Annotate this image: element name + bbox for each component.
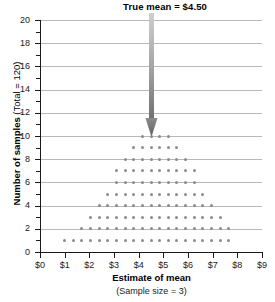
y-axis-tick <box>35 229 40 230</box>
x-axis-subtitle: (Sample size = 3) <box>40 286 263 296</box>
data-point <box>141 193 144 196</box>
data-point <box>150 239 153 242</box>
data-point <box>158 216 161 219</box>
data-point <box>167 146 170 149</box>
data-point <box>184 239 187 242</box>
y-axis-line <box>40 20 41 253</box>
x-axis-tick <box>163 253 164 258</box>
y-axis-tick <box>35 206 40 207</box>
data-point <box>193 239 196 242</box>
data-point <box>141 146 144 149</box>
data-point <box>124 239 127 242</box>
data-point <box>158 193 161 196</box>
data-point <box>184 216 187 219</box>
gridline <box>40 20 262 21</box>
data-point <box>184 193 187 196</box>
data-point <box>219 216 222 219</box>
y-axis-title-sub: (Total = 120) <box>11 62 22 118</box>
x-axis-tick-label: $7 <box>200 261 226 270</box>
x-axis-tick-label: $8 <box>224 261 250 270</box>
y-axis-title: Number of samples (Total = 120) <box>11 34 22 234</box>
data-point <box>124 216 127 219</box>
data-point <box>141 135 144 138</box>
y-axis-tick <box>35 159 40 160</box>
data-point <box>193 216 196 219</box>
y-axis-minor-tick <box>36 32 40 33</box>
x-axis-line <box>40 252 263 253</box>
data-point <box>150 227 153 230</box>
data-point <box>167 204 170 207</box>
data-point <box>193 193 196 196</box>
data-point <box>141 204 144 207</box>
data-point <box>141 181 144 184</box>
data-point <box>158 158 161 161</box>
data-point <box>150 204 153 207</box>
gridline <box>40 113 262 114</box>
data-point <box>124 181 127 184</box>
data-point <box>124 227 127 230</box>
data-point <box>115 216 118 219</box>
data-point <box>98 239 101 242</box>
data-point <box>193 204 196 207</box>
data-point <box>98 204 101 207</box>
y-axis-minor-tick <box>36 194 40 195</box>
y-axis-tick <box>35 182 40 183</box>
data-point <box>124 158 127 161</box>
x-axis-tick-label: $0 <box>27 261 53 270</box>
y-axis-tick <box>35 43 40 44</box>
data-point <box>167 135 170 138</box>
data-point <box>89 239 92 242</box>
data-point <box>167 158 170 161</box>
data-point <box>167 193 170 196</box>
gridline <box>40 90 262 91</box>
chart-title: True mean = $4.50 <box>60 1 270 12</box>
data-point <box>184 181 187 184</box>
data-point <box>141 158 144 161</box>
x-axis-tick <box>237 253 238 258</box>
y-axis-tick <box>35 90 40 91</box>
data-point <box>184 158 187 161</box>
data-point <box>167 239 170 242</box>
x-axis-tick-label: $2 <box>76 261 102 270</box>
data-point <box>150 158 153 161</box>
x-axis-tick <box>114 253 115 258</box>
data-point <box>150 169 153 172</box>
data-point <box>141 216 144 219</box>
x-axis-tick <box>139 253 140 258</box>
data-point <box>150 181 153 184</box>
y-axis-tick <box>35 66 40 67</box>
data-point <box>132 216 135 219</box>
y-axis-title-main: Number of samples <box>11 117 22 205</box>
data-point <box>150 135 153 138</box>
data-point <box>106 193 109 196</box>
y-axis-tick-label: 0 <box>4 248 30 257</box>
data-point <box>72 239 75 242</box>
data-point <box>141 239 144 242</box>
data-point <box>210 239 213 242</box>
data-point <box>115 193 118 196</box>
data-point <box>115 181 118 184</box>
x-axis-tick <box>188 253 189 258</box>
data-point <box>167 216 170 219</box>
x-axis-tick-label: $3 <box>101 261 127 270</box>
y-axis-minor-tick <box>36 124 40 125</box>
data-point <box>167 181 170 184</box>
gridline <box>40 66 262 67</box>
data-point <box>150 193 153 196</box>
y-axis-tick <box>35 113 40 114</box>
x-axis-tick <box>213 253 214 258</box>
y-axis-minor-tick <box>36 55 40 56</box>
x-axis-tick <box>262 253 263 258</box>
x-axis-title: Estimate of mean <box>40 272 263 283</box>
y-axis-minor-tick <box>36 78 40 79</box>
data-point <box>219 227 222 230</box>
x-axis-tick <box>65 253 66 258</box>
data-point <box>124 193 127 196</box>
y-axis-minor-tick <box>36 240 40 241</box>
data-point <box>132 193 135 196</box>
x-axis-tick-label: $9 <box>249 261 275 270</box>
x-axis-tick-label: $6 <box>175 261 201 270</box>
gridline <box>40 43 262 44</box>
data-point <box>193 181 196 184</box>
data-point <box>158 135 161 138</box>
